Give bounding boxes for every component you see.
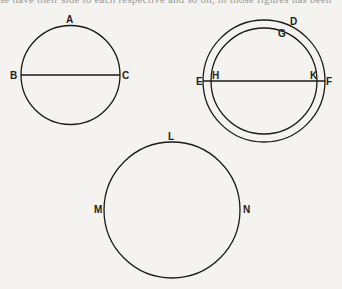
label-k: K (310, 70, 318, 81)
circle-lmn: L M N (94, 131, 250, 278)
label-n: N (243, 204, 250, 215)
label-f: F (326, 76, 332, 87)
label-l: L (168, 131, 174, 142)
label-d: D (290, 16, 297, 27)
circle-abc: A B C (10, 14, 129, 125)
label-b: B (10, 70, 17, 81)
label-c: C (122, 70, 129, 81)
double-circle: D G E H K F (196, 16, 332, 142)
label-a: A (66, 14, 73, 25)
geometry-diagram: A B C D G E H K F L M N (0, 0, 342, 289)
label-m: M (94, 204, 102, 215)
label-e: E (196, 76, 203, 87)
label-h: H (212, 70, 219, 81)
label-g: G (278, 28, 286, 39)
circle-lmn-outline (104, 142, 240, 278)
